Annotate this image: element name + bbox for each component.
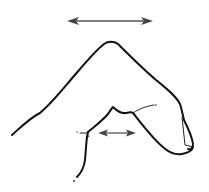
- inner-knuckle-contour: [88, 107, 193, 154]
- stroke-end-dot: [155, 104, 157, 106]
- knuckle-fork-line: [133, 105, 154, 113]
- lower-hand-stroke: [77, 132, 88, 177]
- finger-illustration: [0, 0, 209, 192]
- tick-dot: [76, 131, 77, 132]
- lower-stroke-dot: [73, 180, 75, 182]
- top-stretch-arrow: [67, 17, 153, 25]
- knuckle-stretch-arrow: [98, 130, 136, 137]
